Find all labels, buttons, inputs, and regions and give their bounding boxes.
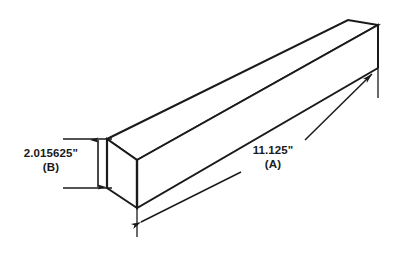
height-dimension-tag: (B) <box>9 161 93 175</box>
height-dimension-value: 2.015625" <box>9 147 93 161</box>
length-dimension-tag: (A) <box>237 158 309 172</box>
bar-solid-body <box>107 20 378 208</box>
length-dimension-label: 11.125" (A) <box>237 144 309 171</box>
bar-isometric-drawing <box>0 0 396 254</box>
height-dimension-label: 2.015625" (B) <box>9 147 93 174</box>
technical-drawing-canvas: 2.015625" (B) 11.125" (A) <box>0 0 396 254</box>
length-dimension-value: 11.125" <box>237 144 309 158</box>
